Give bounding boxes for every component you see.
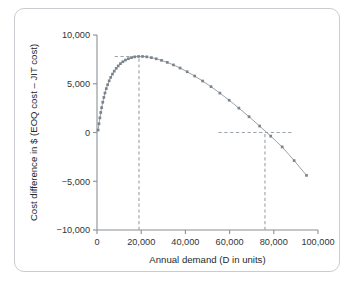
data-point-marker (269, 135, 272, 138)
data-point-marker (99, 117, 102, 120)
data-point-marker (210, 85, 213, 88)
x-tick-label: 20,000 (127, 237, 155, 247)
data-point-marker (219, 92, 222, 95)
data-point-marker (106, 83, 109, 86)
data-point-marker (111, 73, 114, 76)
data-point-marker (122, 60, 125, 63)
data-point-marker (130, 56, 133, 59)
data-point-marker (141, 55, 144, 58)
data-point-marker (258, 125, 261, 128)
data-point-marker (108, 79, 111, 82)
data-point-marker (137, 55, 140, 58)
data-point-marker (119, 62, 122, 65)
y-tick-label: −5,000 (62, 177, 90, 187)
data-point-marker (172, 64, 175, 67)
data-point-marker (193, 75, 196, 78)
data-point-marker (155, 57, 158, 60)
data-point-marker (228, 99, 231, 102)
y-tick-label: −10,000 (57, 225, 90, 235)
data-point-marker (103, 96, 106, 99)
x-tick-label: 40,000 (171, 237, 199, 247)
y-axis-title: Cost difference in $ (EOQ cost – JIT cos… (28, 44, 39, 221)
data-series-line (98, 56, 306, 175)
data-point-marker (248, 115, 251, 118)
data-point-marker (201, 80, 204, 83)
data-point-marker (101, 101, 104, 104)
data-point-marker (109, 76, 112, 79)
data-point-marker (281, 146, 284, 149)
data-point-marker (113, 70, 116, 73)
cost-difference-chart: −10,000−5,00005,00010,000020,00040,00060… (15, 9, 341, 273)
data-point-marker (179, 67, 182, 70)
x-tick-label: 0 (94, 237, 99, 247)
data-point-marker (124, 59, 127, 62)
data-point-marker (305, 174, 308, 177)
y-tick-label: 5,000 (67, 79, 90, 89)
data-point-marker (238, 107, 241, 110)
x-tick-label: 60,000 (216, 237, 244, 247)
data-point-marker (166, 61, 169, 64)
data-point-marker (160, 59, 163, 62)
data-point-marker (100, 106, 103, 109)
x-tick-label: 100,000 (301, 237, 334, 247)
data-point-marker (127, 57, 130, 60)
data-point-marker (104, 92, 107, 95)
y-tick-label: 10,000 (62, 30, 90, 40)
figure-panel: −10,000−5,00005,00010,000020,00040,00060… (14, 8, 340, 272)
data-point-marker (115, 67, 118, 70)
data-point-marker (133, 55, 136, 58)
x-tick-label: 80,000 (260, 237, 288, 247)
data-point-marker (293, 159, 296, 162)
data-point-marker (97, 129, 100, 132)
x-axis-title: Annual demand (D in units) (149, 254, 265, 265)
data-point-marker (105, 87, 108, 90)
y-tick-label: 0 (85, 128, 90, 138)
data-point-marker (99, 111, 102, 114)
data-point-marker (150, 56, 153, 59)
data-point-marker (145, 55, 148, 58)
data-point-marker (186, 70, 189, 73)
data-point-marker (98, 122, 101, 125)
